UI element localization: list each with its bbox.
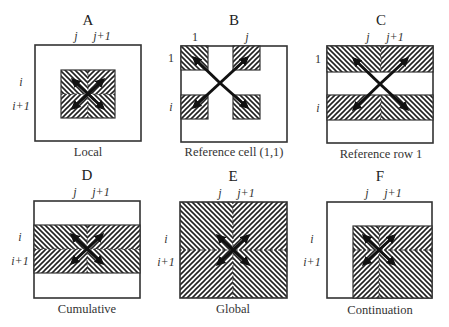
panel-e-col-label-j1: j+1 bbox=[235, 186, 254, 200]
panel-b-caption: Reference cell (1,1) bbox=[185, 145, 284, 159]
panel-a-row-label-i1: i+1 bbox=[12, 99, 29, 113]
comparison-figure: A j j+1 i i+1 Local B 1 j 1 i bbox=[0, 0, 449, 327]
panel-e-caption: Global bbox=[216, 302, 251, 316]
panel-c-caption: Reference row 1 bbox=[340, 147, 423, 161]
panel-d-title: D bbox=[82, 167, 93, 183]
panel-a-col-label-j: j bbox=[72, 29, 78, 43]
panel-f-col-label-j: j bbox=[363, 186, 369, 200]
panel-c: C j j+1 1 i Reference row 1 bbox=[315, 12, 433, 161]
panel-c-row-label-i: i bbox=[316, 101, 319, 115]
panel-e: E j j+1 i i+1 Global bbox=[157, 168, 287, 316]
panel-f-col-label-j1: j+1 bbox=[382, 186, 401, 200]
panel-b: B 1 j 1 i Reference cell (1,1) bbox=[168, 12, 287, 159]
panel-e-row-label-i1: i+1 bbox=[157, 255, 174, 269]
panel-d-row-label-i: i bbox=[18, 230, 21, 244]
panel-e-col-label-j: j bbox=[216, 186, 222, 200]
panel-b-row-label-1: 1 bbox=[168, 51, 174, 65]
panel-e-row-label-i: i bbox=[164, 232, 167, 246]
panel-e-title: E bbox=[228, 168, 237, 184]
panel-d-caption: Cumulative bbox=[58, 302, 117, 316]
panel-f: F j j+1 i i+1 Continuation bbox=[303, 168, 432, 317]
panel-a: A j j+1 i i+1 Local bbox=[12, 12, 141, 159]
panel-f-title: F bbox=[376, 168, 384, 184]
panel-b-row-label-i: i bbox=[169, 100, 172, 114]
panel-f-row-label-i1: i+1 bbox=[303, 255, 320, 269]
panel-d-col-label-j1: j+1 bbox=[90, 185, 109, 199]
panel-a-col-label-j1: j+1 bbox=[91, 29, 110, 43]
panel-a-caption: Local bbox=[74, 145, 103, 159]
panel-b-col-label-1: 1 bbox=[192, 30, 198, 44]
panel-a-row-label-i: i bbox=[19, 75, 22, 89]
panel-c-col-label-j: j bbox=[364, 30, 370, 44]
panel-c-col-label-j1: j+1 bbox=[384, 30, 403, 44]
panel-a-title: A bbox=[83, 12, 94, 28]
panel-b-col-label-j: j bbox=[243, 30, 249, 44]
panel-d: D j j+1 i i+1 Cumulative bbox=[11, 167, 140, 316]
panel-f-row-label-i: i bbox=[310, 232, 313, 246]
panel-d-row-label-i1: i+1 bbox=[11, 254, 28, 268]
panel-d-col-label-j: j bbox=[71, 185, 77, 199]
panel-c-row-label-1: 1 bbox=[315, 52, 321, 66]
panel-c-title: C bbox=[376, 12, 386, 28]
panel-f-caption: Continuation bbox=[347, 303, 413, 317]
panel-b-title: B bbox=[229, 12, 239, 28]
